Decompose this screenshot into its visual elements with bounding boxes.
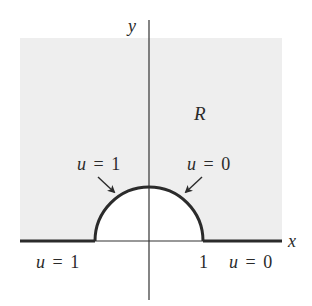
- arc-left-var: u: [77, 154, 86, 174]
- axis-left-condition: u = 1: [36, 252, 79, 272]
- region-label: R: [193, 103, 206, 124]
- axis-right-eq: =: [246, 252, 256, 272]
- arc-right-value: 0: [221, 154, 230, 174]
- x-axis-label: x: [287, 231, 296, 251]
- arc-right-condition: u = 0: [187, 154, 230, 174]
- axis-left-value: 1: [70, 252, 79, 272]
- arc-right-eq: =: [204, 154, 214, 174]
- diagram-canvas: y x R u = 1 u = 0 u = 1 1 u = 0: [0, 0, 312, 306]
- arc-right-var: u: [187, 154, 196, 174]
- axis-right-condition: u = 0: [229, 252, 272, 272]
- x-tick-one: 1: [199, 252, 208, 272]
- axis-right-var: u: [229, 252, 238, 272]
- axis-left-var: u: [36, 252, 45, 272]
- arc-left-eq: =: [94, 154, 104, 174]
- axis-right-value: 0: [263, 252, 272, 272]
- diagram-svg: y x R u = 1 u = 0 u = 1 1 u = 0: [0, 0, 312, 306]
- arc-left-value: 1: [111, 154, 120, 174]
- axis-left-eq: =: [53, 252, 63, 272]
- y-axis-label: y: [126, 16, 136, 36]
- arc-left-condition: u = 1: [77, 154, 120, 174]
